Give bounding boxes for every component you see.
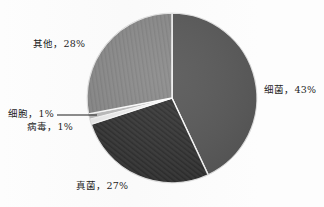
pie-label-other: 其他，28% — [33, 38, 85, 49]
pie-slices — [87, 13, 257, 183]
pie-label-bacteria: 细菌，43% — [264, 84, 316, 95]
pie-chart-svg — [0, 0, 324, 207]
pie-chart-figure: 其他，28% 细菌，43% 细胞，1% 病毒，1% 真菌，27% — [0, 0, 324, 207]
pie-label-virus: 病毒，1% — [27, 121, 73, 132]
pie-shading — [87, 13, 257, 183]
pie-label-fungi: 真菌，27% — [76, 180, 128, 191]
pie-label-cell: 细胞，1% — [8, 108, 54, 119]
